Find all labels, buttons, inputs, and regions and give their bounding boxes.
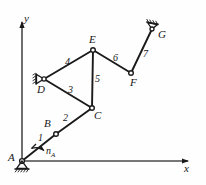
ground-support-G [147,19,159,31]
x-axis-label: x [184,163,189,174]
joint-label-A: A [8,152,15,163]
linkage-diagram-figure: y x A B C D E F G 1 2 3 4 5 6 7 nA [0,0,206,185]
link-number-7: 7 [143,49,148,59]
link-5-coupler-EC [92,50,93,108]
link-number-2: 2 [63,113,68,123]
joint-label-D: D [37,84,45,95]
pivot-G-circle [150,27,154,31]
pin-joint-B [54,132,59,137]
joint-label-B: B [44,118,51,129]
input-speed-label: nA [46,146,55,159]
joint-label-G: G [158,29,166,40]
joint-label-F: F [130,77,137,88]
pin-joint-F [129,71,134,76]
diagram-canvas [0,0,206,185]
joint-label-C: C [94,110,101,121]
link-6-coupler-EF [93,50,131,73]
link-number-4: 4 [65,57,70,67]
pivot-D-circle [42,77,46,81]
y-axis-label: y [24,13,29,24]
link-number-6: 6 [113,53,118,63]
link-number-3: 3 [68,85,73,95]
link-number-1: 1 [38,133,43,143]
pin-joint-E [91,48,96,53]
link-2-coupler-BC [56,108,92,134]
link-number-5: 5 [95,74,100,84]
input-speed-subscript: A [51,151,55,159]
support-D-hatching [33,73,36,83]
joint-label-E: E [89,34,96,45]
link-7-rocker-FG [131,29,152,73]
